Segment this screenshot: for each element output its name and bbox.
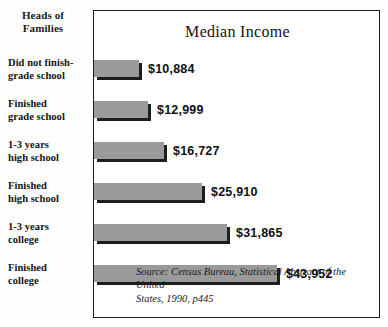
category-label-1-3-years-college: 1-3 years college <box>8 221 92 246</box>
source-note-line-2: States, 1990, p445 <box>136 292 372 306</box>
bar-value-label: $10,884 <box>148 61 195 77</box>
bar-value-label: $12,999 <box>157 102 204 118</box>
bar-1-3-years-high-school <box>94 142 164 159</box>
category-label-line-2: grade school <box>8 70 92 83</box>
bar-value-label: $25,910 <box>211 184 258 200</box>
category-label-line-1: Did not finish- <box>8 57 92 70</box>
bar-1-3-years-college <box>94 224 227 241</box>
chart-frame: Median Income $10,884 $12,999 $16,727 $2… <box>93 10 380 318</box>
category-label-line-2: grade school <box>8 111 92 124</box>
bar-finished-grade-school <box>94 101 148 118</box>
category-label-line-1: 1-3 years <box>8 221 92 234</box>
category-label-column: Heads of Families Did not finish- grade … <box>0 0 92 327</box>
category-label-1-3-years-high-school: 1-3 years high school <box>8 139 92 164</box>
side-heading-line-2: Families <box>0 22 86 35</box>
category-label-line-1: Finished <box>8 98 92 111</box>
category-label-finished-grade-school: Finished grade school <box>8 98 92 123</box>
category-label-line-2: college <box>8 234 92 247</box>
category-label-line-2: high school <box>8 152 92 165</box>
bar-finished-high-school <box>94 183 202 200</box>
category-label-line-2: college <box>8 275 92 288</box>
bar-value-label: $31,865 <box>236 225 283 241</box>
category-label-line-2: high school <box>8 193 92 206</box>
source-note-line-1: Source: Census Bureau, Statistical Abstr… <box>136 265 372 292</box>
bar-value-label: $16,727 <box>173 143 220 159</box>
category-label-finished-college: Finished college <box>8 262 92 287</box>
category-label-finished-high-school: Finished high school <box>8 180 92 205</box>
category-label-line-1: Finished <box>8 180 92 193</box>
median-income-bar-chart-figure: Heads of Families Did not finish- grade … <box>0 0 388 327</box>
side-heading: Heads of Families <box>0 9 86 35</box>
source-note: Source: Census Bureau, Statistical Abstr… <box>136 265 372 306</box>
bar-did-not-finish-grade-school <box>94 60 139 77</box>
side-heading-line-1: Heads of <box>0 9 86 22</box>
category-label-did-not-finish-grade-school: Did not finish- grade school <box>8 57 92 82</box>
category-label-line-1: 1-3 years <box>8 139 92 152</box>
category-label-line-1: Finished <box>8 262 92 275</box>
